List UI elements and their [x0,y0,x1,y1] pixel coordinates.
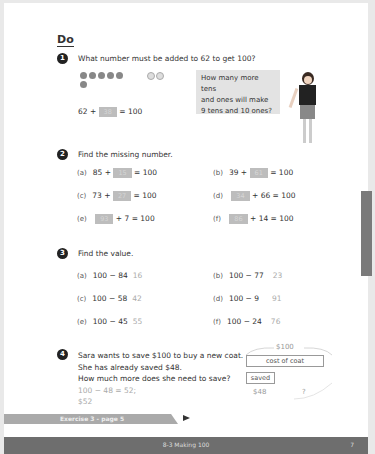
item-answer[interactable]: 55 [133,317,143,326]
girl-skirt [300,105,315,119]
q2-item-a: (a)85 + 15 = 100 [77,168,157,178]
ten-counter [80,72,87,79]
item-answer[interactable]: 16 [133,271,143,280]
page-footer: 8-3 Making 100 7 [4,437,368,454]
item-expression: 100 − 84 [93,271,128,280]
item-after: = 100 [134,191,157,200]
item-after: = 100 [270,168,293,177]
q3-item-a: (a)100 − 8416 [77,271,142,280]
item-label: (e) [77,318,87,326]
item-label: (b) [213,169,223,177]
item-before: 85 + [93,168,111,177]
arrow-right-icon [183,415,190,421]
total-label: $100 [276,343,294,351]
part-value: $48 [253,388,266,396]
q3-item-c: (c)100 − 5842 [77,294,142,303]
girl-leg [309,119,312,143]
ten-counter [107,72,114,79]
item-label: (f) [213,215,221,223]
item-label: (a) [77,272,87,280]
question-number-2: 2 [57,149,68,160]
one-counter [156,72,164,80]
item-label: (d) [213,192,223,200]
item-expression: 100 − 77 [229,271,264,280]
item-expression: 100 − 9 [229,294,259,303]
exercise-link[interactable]: Exercise 3 - page 5 [4,414,178,424]
question-1-text: What number must be added to 62 to get 1… [78,54,255,63]
answer-box[interactable]: 93 [95,214,113,224]
item-expression: 100 − 45 [93,317,128,326]
question-number-1: 1 [57,53,68,64]
question-line: She has already saved $48. [78,362,243,374]
ten-counter [98,72,105,79]
bar-model: $100 cost of coat saved $48 ? [244,343,336,403]
q2-item-f: (f) 86 + 14 = 100 [213,214,294,224]
ten-counter [89,72,96,79]
item-label: (c) [77,192,86,200]
item-after: + 7 = 100 [116,214,155,223]
girl-shirt [299,85,316,105]
ten-counter [80,81,87,88]
item-expression: 100 − 24 [227,317,262,326]
answer-line[interactable]: $52 [78,396,243,408]
answer-box[interactable]: 38 [99,107,117,117]
item-answer[interactable]: 91 [272,294,282,303]
whole-bar: cost of coat [246,355,324,367]
q3-item-f: (f)100 − 2476 [213,317,280,326]
item-after: = 100 [134,168,157,177]
chapter-side-tab [361,191,372,276]
item-label: (d) [213,295,223,303]
speech-bubble: How many more tens and ones will make 9 … [196,70,280,114]
item-answer[interactable]: 23 [273,271,283,280]
answer-box[interactable]: 61 [250,168,268,178]
item-before: 73 + [92,191,110,200]
exercise-link-label: Exercise 3 - page 5 [60,415,124,422]
bubble-line: and ones will make [201,95,275,106]
item-answer[interactable]: 42 [132,294,142,303]
unknown-value: ? [302,388,306,396]
ten-counter [116,72,123,79]
bubble-line: 9 tens and 10 ones? [201,106,275,117]
q2-item-c: (c)73 + 27 = 100 [77,191,157,201]
question-number-3: 3 [57,248,68,259]
question-number-4: 4 [57,349,68,360]
q2-item-d: (d) 34 + 66 = 100 [213,191,296,201]
answer-box[interactable]: 34 [231,191,249,201]
answer-box[interactable]: 86 [229,214,247,224]
question-line: How much more does she need to save? [78,373,243,385]
bubble-line: How many more tens [201,73,275,95]
equation-left: 62 + [78,107,96,116]
item-answer[interactable]: 76 [271,317,281,326]
question-3-text: Find the value. [78,249,133,258]
part-bar: saved [246,372,275,384]
q3-item-b: (b)100 − 7723 [213,271,282,280]
girl-face [304,76,312,84]
item-after: + 14 = 100 [250,214,294,223]
question-line: Sara wants to save $100 to buy a new coa… [78,350,243,362]
answer-box[interactable]: 27 [113,191,131,201]
q2-item-b: (b)39 + 61 = 100 [213,168,293,178]
item-expression: 100 − 58 [92,294,127,303]
item-label: (f) [213,318,221,326]
item-label: (c) [77,295,86,303]
girl-leg [303,119,306,143]
q1-equation: 62 + 38 = 100 [78,107,142,117]
answer-box[interactable]: 15 [113,168,131,178]
question-4-text: Sara wants to save $100 to buy a new coa… [78,350,243,408]
item-after: + 66 = 100 [252,191,296,200]
question-2-text: Find the missing number. [78,150,173,159]
answer-line[interactable]: 100 − 48 = 52; [78,385,243,397]
q3-item-e: (e)100 − 4555 [77,317,142,326]
equation-right: = 100 [119,107,142,116]
item-label: (a) [77,169,87,177]
item-before: 39 + [229,168,247,177]
item-label: (e) [77,215,87,223]
item-label: (b) [213,272,223,280]
q2-item-e: (e) 93 + 7 = 100 [77,214,155,224]
q3-item-d: (d)100 − 991 [213,294,282,303]
one-counter [147,72,155,80]
chapter-title: 8-3 Making 100 [4,441,368,448]
page-number: 7 [350,441,354,448]
section-title: Do [57,34,74,47]
